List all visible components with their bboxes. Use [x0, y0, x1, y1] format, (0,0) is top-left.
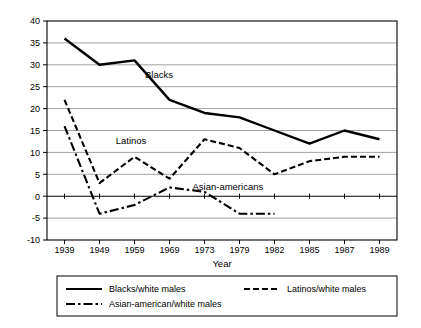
- series-line-latinos: [65, 100, 380, 183]
- x-tick-label: 1979: [229, 245, 249, 255]
- x-axis-tick-marks: [65, 194, 380, 244]
- annotation-latinos: Latinos: [116, 135, 147, 146]
- legend-item[interactable]: Latinos/white males: [244, 284, 367, 294]
- x-axis-title: Year: [212, 258, 231, 269]
- legend-label: Blacks/white males: [109, 284, 186, 294]
- chart-container: -10-50510152025303540 193919491959196919…: [0, 0, 421, 328]
- x-tick-label: 1982: [264, 245, 284, 255]
- y-axis-tick-labels: -10-50510152025303540: [27, 16, 40, 245]
- y-tick-label: 15: [30, 126, 40, 136]
- legend-item[interactable]: Asian-american/white males: [66, 299, 222, 309]
- x-tick-label: 1949: [89, 245, 109, 255]
- chart-legend: Blacks/white malesLatinos/white malesAsi…: [57, 276, 397, 316]
- x-tick-label: 1959: [124, 245, 144, 255]
- y-tick-label: -10: [27, 235, 40, 245]
- legend-label: Asian-american/white males: [109, 299, 222, 309]
- y-tick-label: -5: [32, 213, 40, 223]
- y-tick-label: 30: [30, 60, 40, 70]
- x-tick-label: 1969: [159, 245, 179, 255]
- legend-item[interactable]: Blacks/white males: [66, 284, 186, 294]
- y-axis-tick-marks: [43, 21, 47, 240]
- y-tick-label: 25: [30, 82, 40, 92]
- y-tick-label: 0: [35, 192, 40, 202]
- y-tick-label: 40: [30, 16, 40, 26]
- y-tick-label: 10: [30, 148, 40, 158]
- annotation-asian-americans: Asian-americans: [192, 181, 263, 192]
- x-tick-label: 1989: [369, 245, 389, 255]
- legend-label: Latinos/white males: [287, 284, 367, 294]
- x-tick-label: 1987: [334, 245, 354, 255]
- series-line-asian-americans: [65, 126, 275, 214]
- x-axis-tick-labels: 1939194919591969197319791982198519871989: [54, 245, 389, 255]
- line-chart: -10-50510152025303540 193919491959196919…: [0, 0, 421, 328]
- y-tick-label: 5: [35, 170, 40, 180]
- x-tick-label: 1939: [54, 245, 74, 255]
- series-line-blacks: [65, 39, 380, 144]
- y-tick-label: 35: [30, 38, 40, 48]
- y-tick-label: 20: [30, 104, 40, 114]
- legend-border: [57, 276, 397, 316]
- x-tick-label: 1985: [299, 245, 319, 255]
- annotation-blacks: Blacks: [145, 69, 173, 80]
- x-tick-label: 1973: [194, 245, 214, 255]
